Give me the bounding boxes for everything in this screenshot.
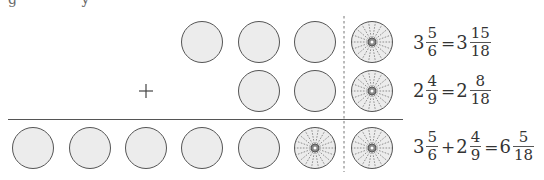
whole-number: 3 bbox=[413, 32, 424, 53]
whole-circle bbox=[13, 128, 54, 169]
fraction: 518 bbox=[513, 130, 534, 163]
whole-circle bbox=[70, 128, 111, 169]
equation-sum: 3 56 + 2 49 = 6 518 bbox=[413, 130, 536, 163]
row-1-whole-circles bbox=[182, 22, 336, 63]
fraction: 56 bbox=[426, 26, 438, 59]
whole-circle bbox=[239, 22, 280, 63]
whole-circle bbox=[182, 128, 223, 169]
equals-sign: = bbox=[441, 81, 455, 101]
numerator: 15 bbox=[470, 26, 491, 42]
denominator: 9 bbox=[470, 146, 482, 163]
numerator: 4 bbox=[470, 130, 482, 146]
denominator: 18 bbox=[470, 90, 491, 107]
fraction: 49 bbox=[470, 130, 482, 163]
plus-sign-icon bbox=[139, 84, 153, 98]
denominator: 6 bbox=[426, 42, 438, 59]
fraction: 1518 bbox=[470, 26, 491, 59]
fraction: 49 bbox=[426, 74, 438, 107]
whole-number: 2 bbox=[413, 80, 424, 101]
fraction: 818 bbox=[470, 74, 491, 107]
equation-1: 3 56 = 3 1518 bbox=[413, 26, 493, 59]
equation-2: 2 49 = 2 818 bbox=[413, 74, 493, 107]
numerator: 5 bbox=[426, 26, 438, 42]
whole-circle bbox=[126, 128, 167, 169]
equals-sign: = bbox=[441, 33, 455, 53]
partitioned-circle-5-of-18 bbox=[352, 128, 393, 169]
whole-circle bbox=[239, 128, 280, 169]
numerator: 4 bbox=[426, 74, 438, 90]
numerator: 5 bbox=[518, 130, 530, 146]
partitioned-circle-18-of-18 bbox=[295, 128, 336, 169]
whole-circle bbox=[295, 71, 336, 112]
whole-number: 2 bbox=[456, 80, 467, 101]
equals-sign: = bbox=[484, 137, 498, 157]
numerator: 8 bbox=[474, 74, 486, 90]
fraction: 56 bbox=[426, 130, 438, 163]
partitioned-circle-8-of-18 bbox=[352, 71, 393, 112]
whole-number: 3 bbox=[413, 136, 424, 157]
plus-sign: + bbox=[441, 137, 455, 157]
whole-number: 2 bbox=[456, 136, 467, 157]
whole-circle bbox=[182, 22, 223, 63]
partitioned-circle-15-of-18 bbox=[352, 22, 393, 63]
whole-circle bbox=[295, 22, 336, 63]
denominator: 6 bbox=[426, 146, 438, 163]
denominator: 9 bbox=[426, 90, 438, 107]
denominator: 18 bbox=[513, 146, 534, 163]
whole-circle bbox=[239, 71, 280, 112]
row-3-whole-circles bbox=[13, 128, 280, 169]
whole-number: 6 bbox=[500, 136, 511, 157]
denominator: 18 bbox=[470, 42, 491, 59]
numerator: 5 bbox=[426, 130, 438, 146]
whole-number: 3 bbox=[456, 32, 467, 53]
row-2-whole-circles bbox=[239, 71, 336, 112]
